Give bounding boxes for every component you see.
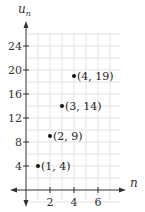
- data-point: [48, 134, 52, 138]
- axes: [10, 21, 126, 207]
- data-point-label: (1, 4): [41, 160, 71, 173]
- y-tick-label: 12: [8, 112, 22, 125]
- y-tick-label: 24: [8, 40, 22, 53]
- data-point: [36, 164, 40, 168]
- x-tick-label: 4: [71, 196, 78, 209]
- y-tick-label: 8: [15, 136, 22, 149]
- grid-lines: [26, 33, 120, 202]
- y-axis-up-arrow-icon: [24, 21, 29, 28]
- x-axis-right-arrow-icon: [119, 188, 126, 193]
- data-point: [72, 74, 76, 78]
- data-point-label: (3, 14): [65, 100, 102, 113]
- x-tick-label: 2: [47, 196, 54, 209]
- x-tick-label: 6: [95, 196, 102, 209]
- y-axis-label: un: [18, 2, 31, 18]
- y-tick-label: 20: [8, 64, 22, 77]
- data-point-label: (4, 19): [77, 70, 114, 83]
- y-tick-label: 16: [8, 88, 22, 101]
- data-point: [60, 104, 64, 108]
- y-tick-label: 4: [15, 160, 22, 173]
- data-point-label: (2, 9): [53, 130, 83, 143]
- scatter-chart: 2464812162024 (1, 4)(2, 9)(3, 14)(4, 19)…: [0, 0, 145, 212]
- x-axis-left-arrow-icon: [10, 188, 17, 193]
- data-points: (1, 4)(2, 9)(3, 14)(4, 19): [36, 70, 114, 173]
- y-axis-down-arrow-icon: [24, 200, 29, 207]
- axis-ticks: 2464812162024: [8, 40, 102, 209]
- x-axis-label: n: [130, 176, 138, 190]
